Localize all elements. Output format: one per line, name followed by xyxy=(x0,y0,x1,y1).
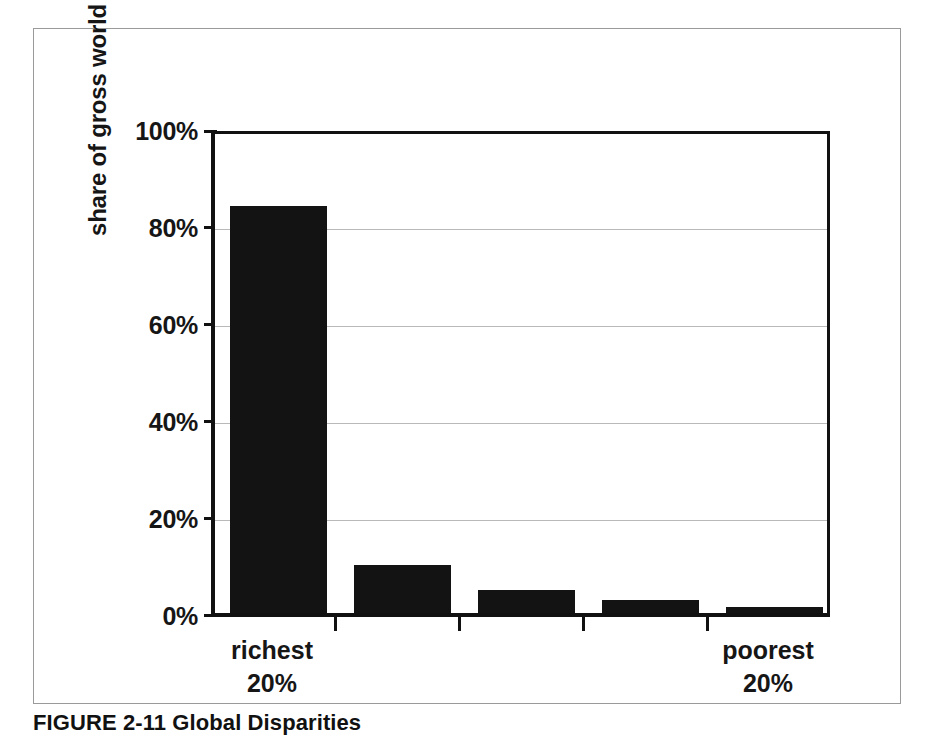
y-tick-label-60: 60% xyxy=(149,311,198,340)
x-label-richest-line2: 20% xyxy=(172,667,372,700)
x-label-poorest: poorest 20% xyxy=(668,634,868,700)
bar-fourth-quintile xyxy=(602,600,699,613)
x-tick-mark-4 xyxy=(706,617,709,631)
x-tick-mark-1 xyxy=(334,617,337,631)
bars-layer xyxy=(215,134,827,613)
x-tick-mark-2 xyxy=(458,617,461,631)
figure-caption: FIGURE 2-11 Global Disparities xyxy=(33,710,361,736)
x-label-richest: richest 20% xyxy=(172,634,372,700)
x-label-richest-line1: richest xyxy=(231,636,313,664)
x-tick-mark-3 xyxy=(582,617,585,631)
y-tick-label-20: 20% xyxy=(149,505,198,534)
y-tick-label-80: 80% xyxy=(149,214,198,243)
bar-second-quintile xyxy=(354,565,451,613)
x-label-poorest-line1: poorest xyxy=(722,636,814,664)
y-axis-tick-labels: 100% 80% 60% 40% 20% 0% xyxy=(120,0,198,722)
bar-poorest-20 xyxy=(726,607,823,613)
bar-richest-20 xyxy=(230,206,327,613)
plot-area xyxy=(211,131,830,617)
y-tick-label-100: 100% xyxy=(135,117,198,146)
y-tick-label-0: 0% xyxy=(162,602,198,631)
x-label-poorest-line2: 20% xyxy=(668,667,868,700)
bar-third-quintile xyxy=(478,590,575,613)
y-tick-label-40: 40% xyxy=(149,408,198,437)
y-axis-title: share of gross world product xyxy=(84,0,112,236)
